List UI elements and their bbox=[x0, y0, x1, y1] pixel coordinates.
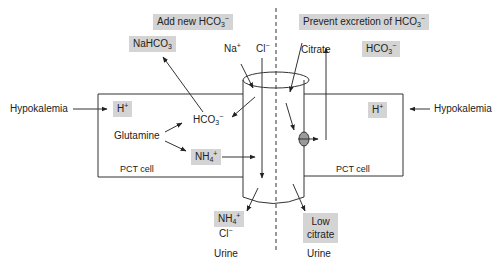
pct-cell-right-label: PCT cell bbox=[336, 163, 370, 175]
hco3-box-right: HCO3− bbox=[362, 41, 400, 57]
nahco3-box: NaHCO3 bbox=[129, 36, 176, 52]
low-citrate-box: Low citrate bbox=[303, 213, 338, 243]
nh4-box-cell: NH4+ bbox=[191, 149, 221, 165]
h-ion-right: H+ bbox=[368, 102, 387, 118]
urine-left-box: NH4+ bbox=[214, 211, 244, 227]
urine-right-label: Urine bbox=[307, 248, 331, 260]
diagram-lines bbox=[0, 0, 502, 266]
h-ion-left: H+ bbox=[113, 101, 132, 117]
hypokalemia-left: Hypokalemia bbox=[10, 103, 68, 115]
glutamine-label: Glutamine bbox=[114, 130, 160, 142]
na-ion-label: Na+ bbox=[224, 43, 241, 55]
hypokalemia-right: Hypokalemia bbox=[434, 103, 492, 115]
urine-left-label: Urine bbox=[214, 248, 238, 260]
urine-left-cl: Cl− bbox=[219, 228, 233, 240]
citrate-label: Citrate bbox=[301, 44, 330, 56]
pct-cell-left-label: PCT cell bbox=[120, 163, 154, 175]
header-add-new-hco3: Add new HCO3− bbox=[153, 14, 233, 30]
header-prevent-excretion: Prevent excretion of HCO3− bbox=[299, 14, 429, 30]
hco3-left: HCO3− bbox=[193, 114, 223, 126]
cl-ion-label: Cl− bbox=[256, 43, 270, 55]
